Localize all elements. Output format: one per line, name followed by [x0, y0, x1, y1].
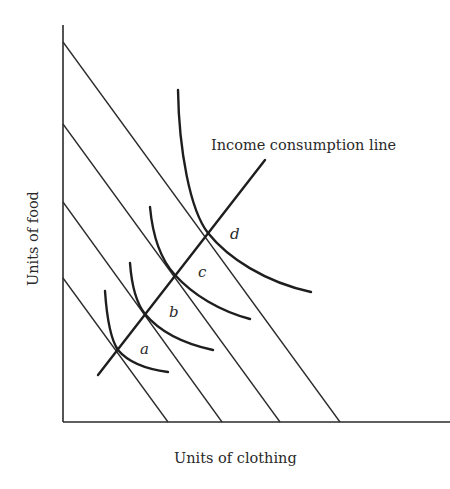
indifference-curves: [105, 90, 311, 372]
point-label-c: c: [198, 263, 207, 281]
y-axis-label: Units of food: [25, 191, 41, 286]
budget-line-3: [63, 124, 280, 422]
income-consumption-line-label: Income consumption line: [211, 137, 396, 153]
point-label-b: b: [169, 303, 179, 321]
x-axis-label: Units of clothing: [174, 450, 297, 466]
income-consumption-line: [98, 160, 265, 375]
income-consumption-diagram: Income consumption line Units of clothin…: [0, 0, 450, 489]
budget-line-1: [63, 278, 168, 422]
point-label-d: d: [230, 225, 240, 243]
indifference-curve-d: [178, 90, 311, 292]
point-label-a: a: [140, 340, 149, 358]
